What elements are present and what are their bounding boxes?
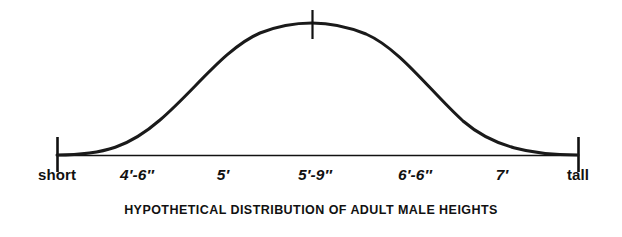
- axis-label-4ft-6in: 4′-6″: [120, 167, 154, 183]
- axis-label-5ft: 5′: [217, 167, 230, 183]
- distribution-plot: [0, 0, 622, 237]
- distribution-figure: short 4′-6″ 5′ 5′-9″ 6′-6″ 7′ tall HYPOT…: [0, 0, 622, 237]
- axis-label-short: short: [38, 167, 76, 182]
- axis-label-tall: tall: [567, 167, 589, 182]
- axis-label-6ft-6in: 6′-6″: [398, 167, 432, 183]
- axis-label-7ft: 7′: [496, 167, 509, 183]
- figure-caption: HYPOTHETICAL DISTRIBUTION OF ADULT MALE …: [0, 204, 622, 217]
- bell-curve: [57, 23, 578, 155]
- axis-label-5ft-9in: 5′-9″: [298, 167, 332, 183]
